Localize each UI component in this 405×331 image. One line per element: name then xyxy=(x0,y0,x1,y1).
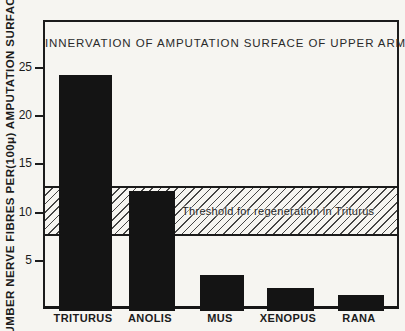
y-tick-mark-15 xyxy=(35,163,44,165)
y-tick-mark-25 xyxy=(35,67,44,69)
bar-rana xyxy=(338,295,384,311)
figure-canvas: NUMBER NERVE FIBRES PER(100μ) AMPUTATION… xyxy=(0,0,405,331)
bar-xenopus xyxy=(267,288,314,311)
x-category-label-anolis: ANOLIS xyxy=(128,312,172,324)
y-tick-mark-10 xyxy=(35,212,44,214)
x-category-label-xenopus: XENOPUS xyxy=(260,312,317,324)
y-tick-label-10: 10 xyxy=(0,205,32,220)
y-tick-mark-20 xyxy=(35,115,44,117)
plot-area: INNERVATION OF AMPUTATION SURFACE OF UPP… xyxy=(43,20,399,309)
y-tick-mark-5 xyxy=(35,260,44,262)
chart-title: INNERVATION OF AMPUTATION SURFACE OF UPP… xyxy=(45,37,397,49)
threshold-band-label: Threshold for regeneration in Triturus xyxy=(182,205,374,217)
x-category-label-mus: MUS xyxy=(207,312,233,324)
bar-mus xyxy=(200,275,244,311)
x-category-label-rana: RANA xyxy=(342,312,375,324)
y-tick-label-15: 15 xyxy=(0,156,32,171)
bar-triturus xyxy=(59,75,112,311)
y-tick-label-20: 20 xyxy=(0,108,32,123)
y-tick-label-5: 5 xyxy=(0,253,32,268)
bar-anolis xyxy=(129,191,175,312)
x-category-label-triturus: TRITURUS xyxy=(54,312,113,324)
y-tick-label-25: 25 xyxy=(0,60,32,75)
